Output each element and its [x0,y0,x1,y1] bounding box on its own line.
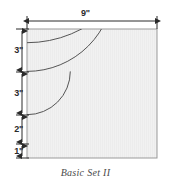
left-dimension-label-2: 3" [1,89,23,98]
diagram-canvas [0,0,171,189]
left-dimension-label-3: 2" [1,125,23,134]
left-dimension-label-4: 1" [1,147,23,156]
left-dimension-label-1: 3" [1,46,23,55]
quilt-block-diagram: 9" 3" 3" 2" 1" Basic Set II [0,0,171,189]
width-dimension-label: 9" [0,9,171,18]
figure-caption: Basic Set II [0,167,171,178]
quilt-block-square [27,29,157,158]
